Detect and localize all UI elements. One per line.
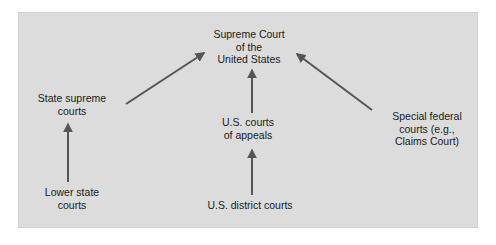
node-supreme-court-line-3: United States (196, 53, 302, 66)
arrow-state-supreme-to-supreme-court (126, 53, 204, 104)
node-us-courts-of-appeals-line-2: of appeals (197, 129, 299, 142)
node-special-federal-courts-line-1: Special federal (372, 110, 482, 123)
node-us-courts-of-appeals: U.S. courts of appeals (197, 116, 299, 141)
node-lower-state-courts-line-2: courts (22, 199, 122, 212)
node-supreme-court-line-2: of the (196, 41, 302, 54)
node-state-supreme-courts-line-2: courts (18, 105, 126, 118)
node-special-federal-courts-line-2: courts (e.g., (372, 123, 482, 136)
arrow-special-federal-to-supreme-court (297, 54, 372, 110)
node-us-district-courts-line-1: U.S. district courts (185, 199, 315, 212)
node-supreme-court-line-1: Supreme Court (196, 28, 302, 41)
node-lower-state-courts: Lower state courts (22, 186, 122, 211)
node-state-supreme-courts-line-1: State supreme (18, 92, 126, 105)
court-system-diagram: Supreme Court of the United States State… (0, 0, 496, 245)
node-us-district-courts: U.S. district courts (185, 199, 315, 212)
node-special-federal-courts: Special federal courts (e.g., Claims Cou… (372, 110, 482, 148)
node-us-courts-of-appeals-line-1: U.S. courts (197, 116, 299, 129)
node-lower-state-courts-line-1: Lower state (22, 186, 122, 199)
node-special-federal-courts-line-3: Claims Court) (372, 135, 482, 148)
node-state-supreme-courts: State supreme courts (18, 92, 126, 117)
node-supreme-court: Supreme Court of the United States (196, 28, 302, 66)
